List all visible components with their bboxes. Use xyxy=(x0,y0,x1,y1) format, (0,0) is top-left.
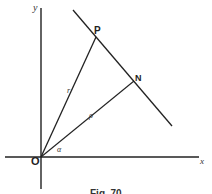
polar-normal-form-diagram: y x O P N r ρ α Fig. 70 xyxy=(0,0,212,194)
segment-on-label: ρ xyxy=(88,111,93,120)
figure-caption: Fig. 70 xyxy=(90,188,122,194)
line-pn xyxy=(73,10,172,126)
angle-alpha-label: α xyxy=(57,145,62,154)
y-axis-label: y xyxy=(32,2,38,13)
point-p-label: P xyxy=(94,25,101,36)
segment-on xyxy=(41,81,134,157)
point-n-label: N xyxy=(135,73,142,83)
x-axis-label: x xyxy=(199,156,204,166)
origin-label: O xyxy=(31,155,40,167)
segment-op xyxy=(41,37,96,157)
